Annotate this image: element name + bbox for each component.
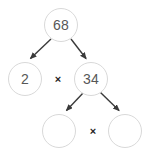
node-blank-left[interactable] [42, 114, 76, 148]
multiply-operator-bottom-symbol: × [90, 126, 96, 137]
node-root[interactable]: 68 [44, 8, 78, 42]
multiply-operator-bottom: × [87, 125, 99, 137]
factor-tree-diagram: 68 2 × 34 × [0, 0, 150, 161]
node-root-label: 68 [53, 18, 69, 32]
node-factor-left-label: 2 [21, 72, 29, 86]
edge-right-to-blank1 [67, 92, 85, 111]
node-blank-right[interactable] [108, 114, 142, 148]
edge-root-to-left [31, 39, 52, 59]
node-factor-right-label: 34 [83, 72, 99, 86]
edge-root-to-right [71, 39, 86, 59]
node-factor-right[interactable]: 34 [74, 62, 108, 96]
node-factor-left[interactable]: 2 [8, 62, 42, 96]
edge-right-to-blank2 [100, 92, 119, 111]
multiply-operator-top: × [52, 73, 64, 85]
multiply-operator-top-symbol: × [55, 74, 61, 85]
